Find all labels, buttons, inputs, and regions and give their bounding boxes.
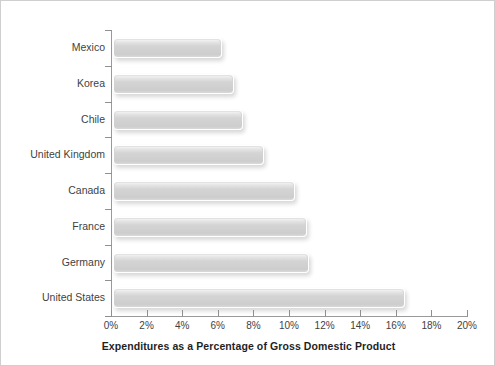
category-label-5: France [1,209,105,245]
category-label-0: Mexico [1,30,105,66]
plot-area: Mexico Korea Chile Unit [1,1,495,366]
x-axis-tick [431,310,432,317]
x-axis-tick-label: 20% [447,320,487,331]
y-axis-tick [105,209,112,210]
bar-2 [113,110,243,130]
x-axis-tick [253,310,254,317]
x-axis-tick-label: 10% [269,320,309,331]
category-label-7: United States [1,280,105,316]
x-axis-tick [325,310,326,317]
chart-row: United States [1,280,495,316]
x-axis-tick-label: 0% [91,320,131,331]
bar-chart: Mexico Korea Chile Unit [0,0,495,366]
category-label-2: Chile [1,102,105,138]
bar-3 [113,145,264,165]
bar-1 [113,74,234,94]
x-axis-tick-label: 4% [162,320,202,331]
x-axis-tick [218,310,219,317]
category-label-6: Germany [1,245,105,281]
chart-row: Korea [1,66,495,102]
x-axis-tick [289,310,290,317]
x-axis-tick-label: 14% [340,320,380,331]
bar-5 [113,217,307,237]
x-axis-tick-label: 18% [411,320,451,331]
x-axis-tick [147,310,148,317]
category-label-3: United Kingdom [1,137,105,173]
bar-7 [113,288,405,308]
chart-row: Chile [1,102,495,138]
y-axis-tick [105,102,112,103]
x-axis-tick-label: 6% [198,320,238,331]
bar-rows: Mexico Korea Chile Unit [1,30,495,316]
y-axis-tick [105,30,112,31]
y-axis-tick [105,280,112,281]
x-axis-title: Expenditures as a Percentage of Gross Do… [1,340,495,352]
x-axis-tick-label: 12% [305,320,345,331]
x-axis-tick [360,310,361,317]
bar-6 [113,253,309,273]
y-axis-tick [105,173,112,174]
x-axis-tick-label: 2% [127,320,167,331]
x-axis-tick [111,310,112,317]
x-axis-tick-label: 16% [376,320,416,331]
chart-row: Germany [1,245,495,281]
x-axis-tick [396,310,397,317]
x-axis-tick [467,310,468,317]
chart-row: Canada [1,173,495,209]
chart-row: United Kingdom [1,137,495,173]
category-label-4: Canada [1,173,105,209]
y-axis-tick [105,137,112,138]
bar-4 [113,181,295,201]
y-axis-tick [105,66,112,67]
chart-row: Mexico [1,30,495,66]
bar-0 [113,38,222,58]
y-axis-tick [105,245,112,246]
chart-row: France [1,209,495,245]
x-axis-tick-label: 8% [233,320,273,331]
category-label-1: Korea [1,66,105,102]
x-axis-tick [182,310,183,317]
